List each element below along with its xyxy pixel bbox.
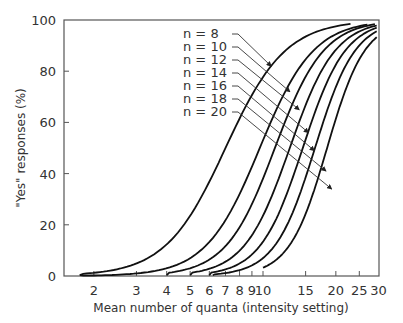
x-tick-label: 5 xyxy=(186,283,194,298)
x-tick-label: 3 xyxy=(132,283,140,298)
curves xyxy=(80,24,377,276)
y-tick-label: 0 xyxy=(48,269,56,284)
y-axis-ticks: 020406080100 xyxy=(31,13,69,284)
x-tick-label: 10 xyxy=(255,283,272,298)
curve-n20 xyxy=(263,37,377,268)
y-tick-label: 40 xyxy=(39,167,56,182)
x-tick-label: 15 xyxy=(297,283,314,298)
x-axis-ticks: 234567891015202530 xyxy=(90,271,387,298)
y-tick-label: 60 xyxy=(39,115,56,130)
x-tick-label: 30 xyxy=(370,283,387,298)
y-tick-label: 20 xyxy=(39,218,56,233)
x-tick-label: 25 xyxy=(351,283,368,298)
y-tick-label: 80 xyxy=(39,64,56,79)
legend-label: n = 20 xyxy=(183,104,227,119)
curve-n16 xyxy=(209,28,376,276)
y-tick-label: 100 xyxy=(31,13,56,28)
x-tick-label: 2 xyxy=(90,283,98,298)
x-tick-label: 4 xyxy=(163,283,171,298)
x-tick-label: 7 xyxy=(221,283,229,298)
legend-leader-arrow xyxy=(232,34,271,66)
psychometric-chart: 020406080100 234567891015202530 n = 8n =… xyxy=(0,0,403,323)
x-axis-title: Mean number of quanta (intensity setting… xyxy=(93,301,348,315)
y-axis-title: "Yes" responses (%) xyxy=(14,88,28,208)
x-tick-label: 20 xyxy=(328,283,345,298)
x-tick-label: 6 xyxy=(205,283,213,298)
x-tick-label: 8 xyxy=(235,283,243,298)
